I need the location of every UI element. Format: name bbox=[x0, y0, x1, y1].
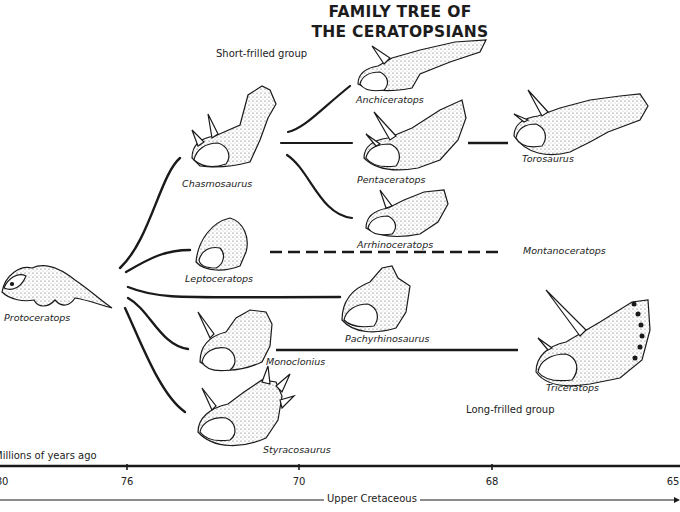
tree-diagram bbox=[0, 0, 680, 512]
label-styracosaurus: Styracosaurus bbox=[263, 444, 331, 455]
chasmosaurus-illustration bbox=[192, 86, 276, 167]
label-pentaceratops: Pentaceratops bbox=[357, 174, 425, 185]
pachyrhinosaurus-illustration bbox=[342, 266, 410, 332]
tick-label-65: 65 bbox=[667, 476, 680, 487]
branch-to-arrhinoceratops bbox=[287, 155, 352, 218]
pentaceratops-illustration bbox=[364, 100, 466, 170]
leptoceratops-illustration bbox=[196, 218, 247, 270]
label-triceratops: Triceratops bbox=[546, 382, 599, 393]
protoceratops-illustration bbox=[2, 266, 112, 308]
period-label: Upper Cretaceous bbox=[324, 493, 420, 504]
period-arrow-icon bbox=[674, 497, 680, 503]
root-branches bbox=[120, 158, 340, 412]
branch-to-pachyrhinosaurus bbox=[128, 287, 340, 297]
tick-label-70: 70 bbox=[293, 476, 306, 487]
label-anchiceratops: Anchiceratops bbox=[356, 94, 424, 105]
branch-to-leptoceratops bbox=[126, 250, 190, 272]
label-montanoceratops: Montanoceratops bbox=[523, 245, 606, 256]
label-leptoceratops: Leptoceratops bbox=[185, 273, 253, 284]
label-torosaurus: Torosaurus bbox=[522, 153, 574, 164]
label-protoceratops: Protoceratops bbox=[4, 312, 70, 323]
label-chasmosaurus: Chasmosaurus bbox=[182, 178, 252, 189]
tick-label-76: 76 bbox=[121, 476, 134, 487]
anchiceratops-illustration bbox=[358, 40, 486, 91]
tick-label-80: 80 bbox=[0, 476, 8, 487]
label-pachyrhinosaurus: Pachyrhinosaurus bbox=[345, 333, 429, 344]
label-monoclonius: Monoclonius bbox=[266, 356, 325, 367]
chasmosaurus-branches bbox=[281, 86, 352, 218]
monoclonius-illustration bbox=[198, 310, 272, 371]
branch-to-anchiceratops bbox=[288, 86, 350, 132]
styracosaurus-illustration bbox=[198, 366, 294, 446]
axis-title: Millions of years ago bbox=[0, 450, 97, 461]
branch-to-monoclonius bbox=[128, 298, 188, 349]
tick-label-68: 68 bbox=[486, 476, 499, 487]
torosaurus-illustration bbox=[514, 90, 648, 155]
triceratops-illustration bbox=[536, 290, 650, 386]
branch-to-styracosaurus bbox=[125, 308, 185, 412]
arrhinoceratops-illustration bbox=[366, 190, 448, 236]
label-arrhinoceratops: Arrhinoceratops bbox=[357, 239, 433, 250]
